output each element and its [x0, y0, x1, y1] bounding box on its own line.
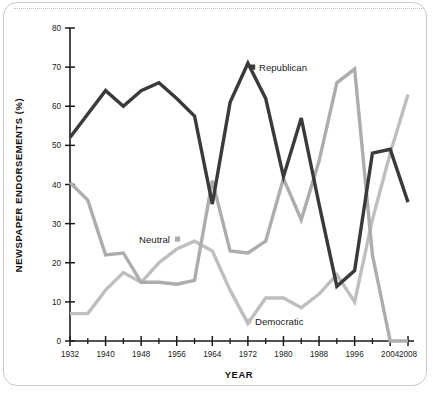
x-tick-label: 1980	[274, 350, 293, 359]
y-tick-label: 70	[52, 63, 62, 72]
legend-marker-neutral-icon	[175, 237, 180, 242]
series-line-democratic	[70, 95, 408, 324]
legend-label-neutral: Neutral	[139, 234, 170, 245]
y-tick-label: 10	[52, 298, 62, 307]
y-tick-label: 80	[52, 24, 62, 33]
y-tick-label: 30	[52, 220, 62, 229]
y-tick-label: 20	[52, 259, 62, 268]
x-tick-label: 2004	[381, 350, 400, 359]
chart-axes	[65, 28, 414, 346]
x-tick-label: 1948	[132, 350, 151, 359]
x-tick-label: 1988	[310, 350, 329, 359]
chart-series-group	[70, 63, 408, 341]
x-tick-label: 2008	[399, 350, 418, 359]
x-tick-label: 1972	[239, 350, 258, 359]
y-axis-title: NEWSPAPER ENDORSEMENTS (%)	[13, 98, 24, 272]
x-tick-label: 1996	[346, 350, 365, 359]
legend-marker-democratic-icon	[246, 319, 251, 324]
x-axis-title: YEAR	[225, 369, 253, 380]
chart-legend-annotations: RepublicanNeutralDemocratic	[139, 62, 307, 327]
x-tick-label: 1956	[168, 350, 187, 359]
legend-label-democratic: Democratic	[255, 316, 304, 327]
x-tick-label: 1940	[96, 350, 115, 359]
chart-figure: NEWSPAPER ENDORSEMENTS (%) YEAR 01020304…	[0, 0, 433, 396]
legend-marker-republican-icon	[250, 65, 255, 70]
y-tick-label: 0	[56, 337, 61, 346]
x-tick-label: 1932	[61, 350, 80, 359]
legend-label-republican: Republican	[259, 62, 307, 73]
y-tick-label: 40	[52, 181, 62, 190]
legend-annotation-democratic: Democratic	[246, 316, 304, 327]
legend-annotation-neutral: Neutral	[139, 234, 180, 245]
line-chart-canvas: NEWSPAPER ENDORSEMENTS (%) YEAR 01020304…	[0, 0, 433, 396]
legend-annotation-republican: Republican	[250, 62, 307, 73]
x-tick-label: 1964	[203, 350, 222, 359]
y-tick-label: 50	[52, 141, 62, 150]
y-tick-labels: 01020304050607080	[52, 24, 62, 346]
series-line-neutral	[70, 69, 408, 341]
x-tick-labels: 1932194019481956196419721980198819962004…	[61, 350, 418, 359]
y-tick-label: 60	[52, 102, 62, 111]
